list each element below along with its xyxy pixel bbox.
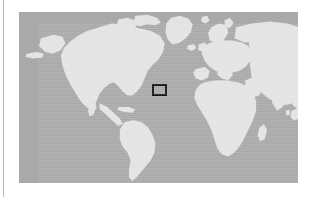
figure-page: { "figure": { "type": "locator-map", "ti… bbox=[0, 0, 322, 197]
world-map-figure bbox=[19, 12, 298, 183]
page-gutter-rule bbox=[3, 0, 4, 197]
study-area-highlight-box bbox=[152, 84, 167, 96]
world-map-svg bbox=[19, 12, 298, 183]
sri-lanka-landmass bbox=[286, 110, 291, 116]
